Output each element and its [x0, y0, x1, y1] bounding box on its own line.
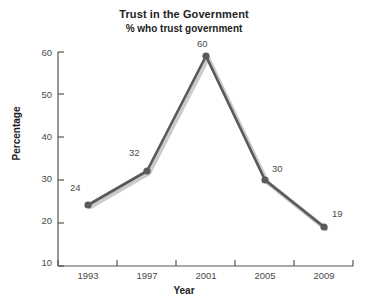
series-line-shadow — [90, 58, 326, 229]
plot-area — [0, 0, 368, 304]
data-point-2005[interactable] — [261, 176, 268, 183]
data-point-2009[interactable] — [320, 223, 327, 230]
data-point-2001[interactable] — [202, 52, 209, 59]
axis-lines — [58, 52, 353, 266]
data-point-1997[interactable] — [143, 167, 150, 174]
x-axis-ticks — [58, 260, 353, 266]
y-axis-ticks — [58, 52, 64, 266]
data-point-1993[interactable] — [84, 201, 91, 208]
chart-container: Trust in the Government % who trust gove… — [0, 0, 368, 304]
